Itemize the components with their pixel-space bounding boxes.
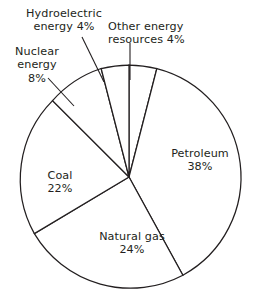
slice-label-nuclear-line2: energy [4, 58, 70, 71]
slice-label-other-energy-resources: Other energy resources 4% [108, 20, 210, 47]
slice-label-coal-percent: 22% [33, 182, 87, 195]
slice-label-hydroelectric-energy: Hydroelectric energy 4% [14, 7, 114, 34]
slice-label-hydroelectric-line2: energy 4% [14, 20, 114, 33]
slice-label-petroleum-name: Petroleum [171, 147, 229, 160]
pie-chart: Hydroelectric energy 4% Other energy res… [0, 0, 259, 305]
slice-label-nuclear-energy: Nuclear energy 8% [4, 45, 70, 85]
slice-label-other-line1: Other energy [108, 20, 184, 33]
slice-label-nuclear-percent: 8% [4, 72, 70, 85]
slice-label-natural-gas-percent: 24% [89, 243, 175, 256]
slice-label-natural-gas: Natural gas 24% [89, 230, 175, 257]
slice-label-other-line2: resources 4% [108, 33, 210, 46]
slice-label-petroleum-percent: 38% [163, 160, 237, 173]
slice-label-coal-name: Coal [47, 169, 72, 182]
slice-label-coal: Coal 22% [33, 169, 87, 196]
slice-label-hydroelectric-line1: Hydroelectric [26, 7, 102, 20]
slice-label-nuclear-line1: Nuclear [15, 45, 59, 58]
slice-label-petroleum: Petroleum 38% [163, 147, 237, 174]
slice-label-natural-gas-name: Natural gas [99, 230, 165, 243]
